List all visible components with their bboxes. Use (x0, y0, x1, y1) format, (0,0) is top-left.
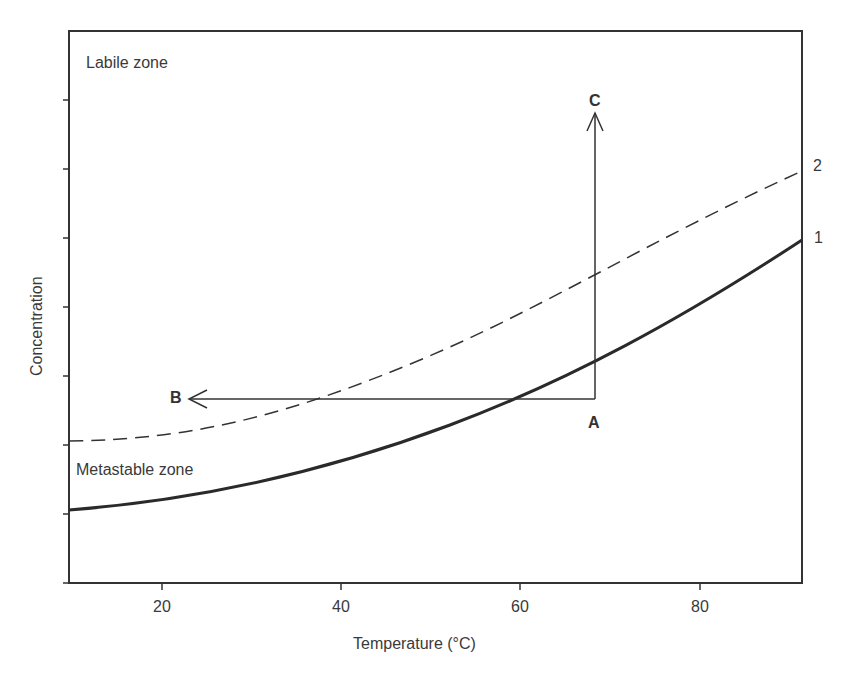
x-axis-title: Temperature (°C) (353, 635, 476, 653)
x-tick-label: 20 (153, 598, 171, 616)
metastable-zone-label: Metastable zone (76, 461, 193, 479)
x-tick-label: 80 (691, 598, 709, 616)
point-a-label: A (588, 414, 600, 432)
point-c-label: C (589, 92, 601, 110)
chart-canvas (0, 0, 850, 680)
curve-1-label: 1 (814, 229, 823, 247)
x-ticks (162, 583, 700, 590)
x-tick-label: 60 (511, 598, 529, 616)
x-tick-label: 40 (332, 598, 350, 616)
curve-2-label: 2 (813, 157, 822, 175)
labile-zone-label: Labile zone (86, 54, 168, 72)
y-axis-title: Concentration (28, 276, 46, 376)
point-b-label: B (170, 389, 182, 407)
